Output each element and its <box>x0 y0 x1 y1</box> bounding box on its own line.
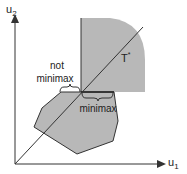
minimax-label: minimax <box>79 103 116 114</box>
not-minimax-brace <box>60 84 80 92</box>
t-star-region <box>81 18 145 92</box>
minimax-diagram: u2 u1 T* not minimax minimax <box>0 0 187 174</box>
x-axis-label: u1 <box>168 156 179 171</box>
x-axis-arrow-icon <box>157 160 166 168</box>
not-minimax-label-line1: not <box>50 60 64 71</box>
not-minimax-label-line2: minimax <box>36 73 73 84</box>
risk-set-polygon <box>34 92 118 154</box>
y-axis-label: u2 <box>6 3 17 18</box>
